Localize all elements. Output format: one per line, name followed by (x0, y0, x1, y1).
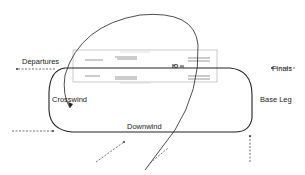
label-downwind: Downwind (127, 122, 162, 131)
label-base-leg: Base Leg (260, 95, 292, 104)
departure-arc (65, 14, 198, 170)
label-finals: Finals (272, 64, 292, 73)
label-departures: Departures (22, 57, 59, 66)
runway-marking: Ю ∞ (172, 63, 184, 69)
traffic-pattern-diagram (0, 0, 305, 175)
label-crosswind: Crosswind (52, 95, 87, 104)
